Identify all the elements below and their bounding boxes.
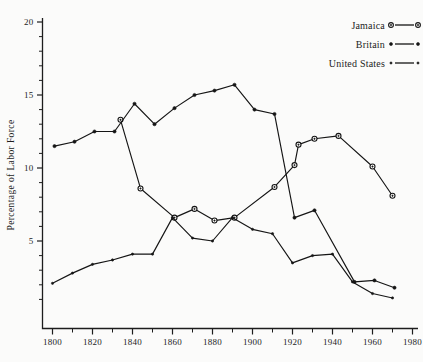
y-axis-ticks [37,22,43,299]
data-point-marker [231,216,233,218]
data-series [51,83,396,299]
data-point-marker [193,93,196,96]
y-tick-label: 10 [24,163,34,173]
data-point-center [140,188,141,189]
legend-marker [417,62,419,64]
legend-label: Jamaica [351,20,385,31]
x-tick-label: 1980 [403,337,422,347]
y-tick-label: 5 [29,236,34,246]
data-point-marker [191,237,193,239]
data-point-marker [91,263,93,265]
data-point-center [214,220,215,221]
legend-item-jamaica[interactable]: Jamaica [351,20,420,31]
data-point-marker [291,262,293,264]
data-point-marker [273,112,276,115]
legend-label: United States [329,58,385,69]
data-point-marker [393,286,396,289]
data-point-center [120,119,121,120]
series-united-states [51,216,393,299]
data-point-marker [51,282,53,284]
data-point-marker [171,216,173,218]
x-tick-label: 1960 [363,337,382,347]
y-tick-label: 20 [24,17,34,27]
data-point-marker [53,145,56,148]
y-axis-title: Percentage of Labor Force [6,119,16,230]
legend-marker-center [390,24,391,25]
data-point-marker [373,279,376,282]
data-point-marker [331,253,333,255]
legend-marker [417,43,420,46]
legend-marker [390,62,392,64]
line-chart: 5101520 18001820184018601880190019201940… [0,0,423,362]
legend-marker [390,43,393,46]
data-point-marker [73,140,76,143]
data-point-marker [151,253,153,255]
legend-item-britain[interactable]: Britain [356,39,420,50]
chart-page: 5101520 18001820184018601880190019201940… [0,0,423,362]
data-point-marker [113,130,116,133]
data-point-marker [111,259,113,261]
x-tick-label: 1840 [123,337,142,347]
data-point-marker [233,83,236,86]
data-point-marker [271,233,273,235]
data-point-marker [351,281,353,283]
x-axis-tick-labels: 1800182018401860188019001920194019601980 [43,337,422,347]
data-point-center [372,166,373,167]
y-axis-tick-labels: 5101520 [24,17,34,246]
data-point-center [274,186,275,187]
x-tick-label: 1900 [243,337,262,347]
chart-legend[interactable]: JamaicaBritainUnited States [329,20,421,69]
data-point-marker [153,123,156,126]
series-britain [53,83,396,289]
data-point-marker [211,240,213,242]
x-axis-ticks [53,329,413,335]
x-tick-label: 1820 [83,337,102,347]
data-point-marker [93,130,96,133]
data-point-center [294,164,295,165]
data-point-marker [253,108,256,111]
data-point-center [174,217,175,218]
data-point-center [392,195,393,196]
series-path [55,85,395,288]
series-path [121,120,393,221]
data-point-marker [131,253,133,255]
data-point-center [298,144,299,145]
legend-label: Britain [356,39,385,50]
data-point-marker [251,228,253,230]
data-point-marker [391,297,393,299]
series-jamaica [118,117,395,223]
data-point-center [338,135,339,136]
x-tick-label: 1880 [203,337,222,347]
y-tick-label: 15 [24,90,34,100]
data-point-center [194,208,195,209]
data-point-marker [313,209,316,212]
x-tick-label: 1940 [323,337,342,347]
data-point-marker [311,254,313,256]
x-tick-label: 1920 [283,337,302,347]
data-point-marker [71,272,73,274]
legend-item-united-states[interactable]: United States [329,58,419,69]
data-point-marker [133,102,136,105]
data-point-marker [371,292,373,294]
data-point-marker [293,216,296,219]
data-point-center [314,138,315,139]
legend-marker-center [417,24,418,25]
x-tick-label: 1800 [43,337,62,347]
data-point-marker [213,89,216,92]
y-axis-title-text: Percentage of Labor Force [6,119,16,230]
x-tick-label: 1860 [163,337,182,347]
data-point-marker [173,107,176,110]
